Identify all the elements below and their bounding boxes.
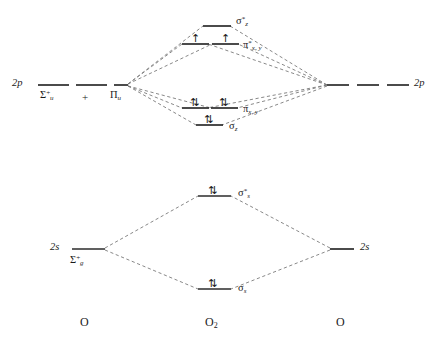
molecule-symbol: O: [205, 315, 214, 329]
sigma-s-label: σs: [238, 283, 246, 295]
left-2p-term-sigma: Σ+u: [40, 90, 54, 102]
sigma-z-label: σz: [229, 121, 237, 133]
electrons-sigma-s-star: ⇅: [208, 185, 216, 196]
electrons-pi-x: ⇅: [190, 97, 198, 108]
electrons-pi-y: ⇅: [219, 97, 227, 108]
electrons-sigma-z: ⇅: [204, 114, 212, 125]
sigma-z-subscript: z: [235, 125, 238, 133]
pi-glyph: Π: [110, 89, 118, 100]
pi-subscript-bonding: x, y: [248, 108, 258, 116]
mo-level-lines: [182, 26, 239, 289]
electrons-pi-star-x: ↑: [191, 33, 199, 44]
electrons-sigma-s: ⇅: [208, 278, 216, 289]
sigma-subscript: u: [50, 94, 54, 102]
sigma-s-subscript: s: [244, 287, 247, 295]
pi-label: πx, y: [243, 104, 258, 116]
sigma-z-star-subscript: z: [245, 20, 248, 28]
left-2s-term-sigma: Σ+g: [70, 255, 84, 267]
sigma-s-star-subscript: s: [247, 192, 250, 200]
correlation-lines-2s: [105, 196, 330, 289]
mo-energy-diagram: 2p Σ+u + Πu 2p 2s Σ+g 2s σ*z π*x, y πx, …: [0, 0, 436, 361]
sigma-z-star-label: σ*z: [236, 16, 248, 28]
molecule-subscript: 2: [214, 321, 218, 330]
plus-sign: +: [82, 92, 88, 103]
pi-subscript: u: [118, 94, 122, 102]
sigma-s-star-label: σ*s: [238, 188, 250, 200]
bottom-label-molecule: O2: [205, 316, 218, 330]
bottom-label-right-atom: O: [336, 316, 345, 328]
pi-star-label: π*x, y: [243, 40, 262, 52]
right-2s-label: 2s: [360, 242, 369, 253]
pi-star-subscript: x, y: [252, 44, 262, 52]
sigma-2s-subscript: g: [80, 259, 84, 267]
left-2p-term-pi: Πu: [110, 90, 121, 102]
bottom-label-left-atom: O: [80, 316, 89, 328]
electrons-pi-star-y: ↑: [221, 33, 229, 44]
left-2p-label: 2p: [12, 78, 23, 89]
right-2p-label: 2p: [414, 78, 425, 89]
left-2s-label: 2s: [50, 242, 59, 253]
diagram-lines: [0, 0, 436, 361]
